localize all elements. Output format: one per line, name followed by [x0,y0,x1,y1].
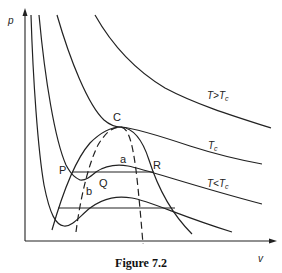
point-a-label: a [120,153,127,165]
figure-caption: Figure 7.2 [0,256,282,271]
coexistence-curve [52,127,192,234]
x-axis-arrow-icon [269,239,277,244]
point-p-label: P [59,164,66,176]
label-tc: Tc [208,140,218,152]
isotherm-above-critical [95,15,271,128]
point-r-label: R [153,159,161,171]
point-q-label: Q [99,177,108,189]
temperature-labels: T>Tc Tc T<Tc [207,90,229,190]
y-axis-label: p [7,15,14,26]
y-axis-arrow-icon [23,8,28,16]
isotherm-critical [57,15,262,164]
isotherm-below-critical [39,15,262,204]
label-t-below-tc: T<Tc [207,178,229,190]
critical-point-label: C [113,111,121,123]
point-b-label: b [86,185,92,197]
label-t-above-tc: T>Tc [207,90,229,102]
pv-diagram: p v C P Q R a b T>Tc [0,0,282,273]
pv-diagram-canvas: p v C P Q R a b T>Tc [0,0,282,273]
isotherms [31,15,271,244]
